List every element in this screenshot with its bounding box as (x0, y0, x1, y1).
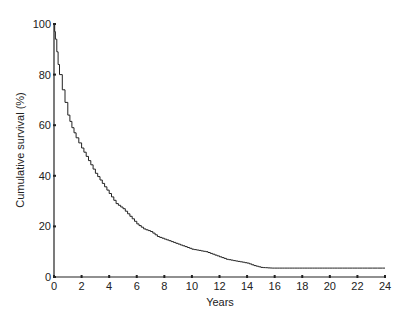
x-tick-label: 22 (351, 280, 363, 292)
x-tick-label: 20 (324, 280, 336, 292)
survival-chart: 020406080100 024681012141618202224 Years… (0, 0, 410, 322)
survival-curve (54, 24, 385, 268)
x-axis-label: Years (206, 296, 234, 308)
y-tick-label: 100 (33, 18, 51, 30)
y-tick-label: 80 (39, 69, 51, 81)
x-tick-label: 8 (161, 280, 167, 292)
x-tick-label: 2 (79, 280, 85, 292)
x-tick-label: 6 (134, 280, 140, 292)
y-tick-label: 60 (39, 119, 51, 131)
x-tick-label: 16 (269, 280, 281, 292)
x-tick-label: 4 (106, 280, 112, 292)
x-tick-label: 0 (51, 280, 57, 292)
x-tick-label: 18 (296, 280, 308, 292)
x-tick-label: 12 (213, 280, 225, 292)
y-tick-label: 20 (39, 220, 51, 232)
x-tick-label: 24 (379, 280, 391, 292)
y-axis-ticks: 020406080100 (33, 18, 56, 283)
x-tick-label: 14 (241, 280, 253, 292)
y-axis-label: Cumulative survival (%) (14, 92, 26, 208)
x-tick-label: 10 (186, 280, 198, 292)
y-tick-label: 40 (39, 170, 51, 182)
